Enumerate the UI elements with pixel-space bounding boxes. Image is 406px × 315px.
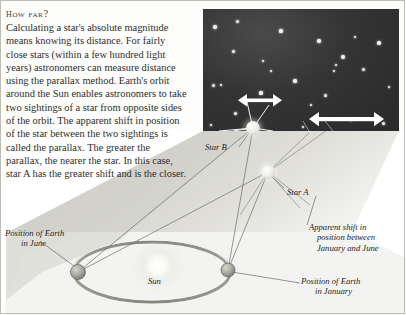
label-apparent-shift-line1: Apparent shift in	[309, 222, 403, 232]
earth-january-marker	[221, 263, 235, 277]
label-earth-january: Position of Earth in January	[301, 276, 401, 297]
figure-page: Star B Star A Sun Position of Earth in J…	[0, 0, 406, 315]
label-apparent-shift-line3: January and June	[317, 243, 403, 253]
label-earth-june-line1: Position of Earth	[5, 228, 97, 238]
article-body-paragraph: Calculating a star's absolute magnitude …	[6, 21, 188, 181]
article-text-column: How far? Calculating a star's absolute m…	[6, 7, 188, 181]
label-earth-january-line1: Position of Earth	[301, 276, 401, 286]
article-body: Calculating a star's absolute magnitude …	[6, 21, 188, 181]
label-earth-june-line2: in June	[21, 238, 97, 248]
label-apparent-shift-line2: position between	[317, 232, 403, 242]
page-title: How far?	[6, 7, 188, 20]
label-star-b: Star B	[205, 142, 227, 152]
label-apparent-shift: Apparent shift in position between Janua…	[309, 222, 403, 253]
label-sun: Sun	[148, 276, 161, 286]
label-earth-june: Position of Earth in June	[5, 228, 97, 249]
earth-june-marker	[71, 265, 86, 280]
label-star-a: Star A	[287, 187, 309, 197]
label-earth-january-line2: in January	[315, 286, 401, 296]
